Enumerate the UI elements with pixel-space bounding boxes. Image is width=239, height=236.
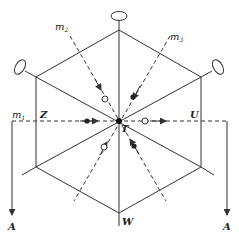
lower-right-stub — [201, 167, 214, 175]
filled-mass-m3 — [130, 94, 135, 99]
left-bearing-icon — [12, 58, 28, 76]
open-mass-right — [142, 118, 148, 124]
label-T: T — [121, 123, 130, 134]
right-stub — [201, 71, 212, 77]
filled-mass-m2 — [131, 143, 136, 148]
label-Z: Z — [39, 109, 48, 120]
lower-left-stub — [22, 167, 36, 175]
top-bearing-icon — [111, 12, 127, 21]
label-A-right: A — [222, 221, 231, 232]
open-mass-m2 — [102, 96, 108, 102]
label-U: U — [190, 109, 200, 120]
label-W: W — [122, 216, 135, 227]
label-m2: m2 — [55, 21, 68, 33]
label-m3: m3 — [170, 31, 183, 43]
hexagonal-force-diagram: m2 m3 m1 Z U T W A A — [0, 0, 239, 236]
spokes — [36, 30, 201, 226]
m2-upper-arrow — [95, 79, 101, 90]
m3-dashed-line — [74, 36, 170, 201]
m3-path — [74, 36, 170, 201]
left-stub — [25, 71, 36, 77]
open-mass-m3 — [101, 144, 107, 150]
label-A-left: A — [7, 221, 16, 232]
filled-mass-left — [84, 118, 89, 123]
label-m1: m1 — [12, 109, 25, 121]
right-bearing-icon — [210, 58, 226, 76]
